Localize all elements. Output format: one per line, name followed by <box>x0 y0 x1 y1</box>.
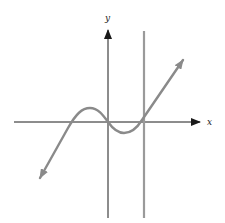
cubic-curve <box>40 60 183 178</box>
graph-figure: x y <box>0 0 225 223</box>
x-axis-label: x <box>207 117 212 127</box>
y-axis-label: y <box>104 13 111 23</box>
